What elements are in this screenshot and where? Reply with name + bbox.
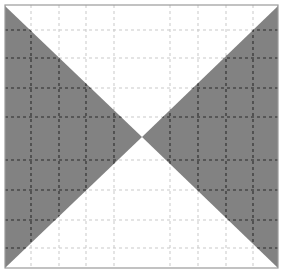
figure-container: [0, 0, 283, 271]
bowtie-grid-figure: [0, 0, 283, 271]
